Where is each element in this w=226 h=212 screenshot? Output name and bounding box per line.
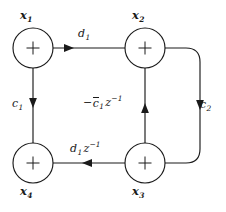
edge-label-d1z-z: z <box>83 142 89 155</box>
edge-label-c2: c2 <box>200 99 211 110</box>
edge-label-d1: d1 <box>78 28 90 39</box>
edge-x2-to-x3 <box>165 48 204 163</box>
edge-x1-to-x2 <box>53 44 125 52</box>
edge-label-c1: c1 <box>12 98 23 109</box>
edge-label-d1-base: d <box>78 27 85 40</box>
node-x3 <box>125 143 165 183</box>
arrow-head-down-left <box>29 98 37 108</box>
node-label-x4: x4 <box>20 186 32 198</box>
node-label-x1: x1 <box>20 10 32 22</box>
node-label-x1-sub: 1 <box>27 15 32 24</box>
node-x1 <box>13 28 53 68</box>
edge-x3-to-x4 <box>53 159 125 167</box>
edge-x1-to-x4 <box>29 68 37 143</box>
signal-flow-diagram: x1 x2 x4 x3 d1 c1 c2 −c1z−1 d1z−1 <box>0 0 226 212</box>
edge-label-d1-sub: 1 <box>85 33 90 42</box>
edge-label-c1-sub: 1 <box>19 103 24 112</box>
node-label-x2-sub: 2 <box>139 15 144 24</box>
node-label-x2-base: x <box>132 8 139 22</box>
node-label-x3: x3 <box>132 186 144 198</box>
edge-label-cbar-sub: 1 <box>99 102 104 111</box>
node-label-x2: x2 <box>132 10 144 22</box>
edge-label-c2-sub: 2 <box>207 104 212 113</box>
arrow-head-left-bottom <box>82 159 92 167</box>
edge-label-d1z-base: d <box>70 142 77 155</box>
edge-label-cbar-base: c <box>93 97 99 109</box>
arrow-head-right-top <box>64 44 74 52</box>
node-label-x4-base: x <box>20 184 27 198</box>
edge-x2-to-x3-path <box>165 48 200 163</box>
edge-label-minus-sign: − <box>83 96 92 109</box>
node-label-x3-sub: 3 <box>139 191 144 200</box>
edge-label-c2-base: c <box>200 98 206 111</box>
arrow-head-up-middle <box>141 103 149 113</box>
edge-label-d1z-sub: 1 <box>77 148 82 157</box>
edge-label-c1-base: c <box>12 97 18 110</box>
edge-label-cbar-exponent: −1 <box>111 94 122 103</box>
node-label-x3-base: x <box>132 184 139 198</box>
edge-label-d1-z-inverse: d1z−1 <box>70 143 101 154</box>
edge-x3-to-x2 <box>141 68 149 143</box>
node-x2 <box>125 28 165 68</box>
node-label-x4-sub: 4 <box>27 191 32 200</box>
edge-label-neg-cbar1-z-inverse: −c1z−1 <box>83 96 122 108</box>
edge-label-d1z-exponent: −1 <box>90 140 101 149</box>
node-label-x1-base: x <box>20 8 27 22</box>
node-x4 <box>13 143 53 183</box>
